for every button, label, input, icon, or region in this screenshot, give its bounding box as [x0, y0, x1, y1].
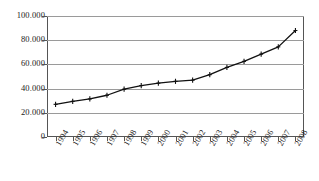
data-point [174, 79, 178, 84]
data-point [208, 72, 212, 77]
data-point [156, 81, 160, 86]
data-point [71, 99, 75, 104]
data-point [259, 52, 263, 57]
data-point [88, 96, 92, 101]
data-point [122, 87, 126, 92]
series-line [56, 31, 296, 105]
data-point [139, 83, 143, 88]
data-point [105, 93, 109, 98]
series-markers [54, 28, 298, 107]
data-series-layer [47, 16, 304, 137]
data-point [54, 102, 58, 107]
data-point [242, 59, 246, 64]
line-chart: 020.00040.00060.00080.000100.000 1994199… [0, 0, 319, 181]
y-axis-tick-label: 100.000 [17, 11, 45, 20]
y-axis-tick-mark [42, 137, 47, 138]
data-point [225, 65, 229, 70]
data-point [191, 78, 195, 83]
